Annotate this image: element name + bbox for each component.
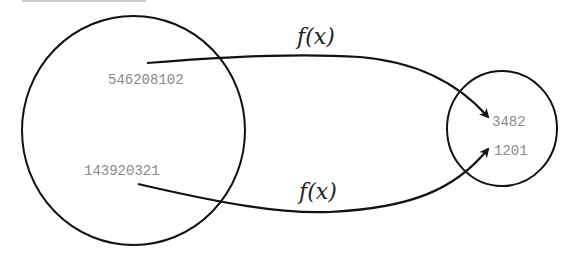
function-label-top: f(x) (295, 24, 335, 49)
codomain-element-1: 3482 (492, 114, 526, 130)
domain-set-circle (22, 16, 245, 245)
codomain-element-2: 1201 (494, 143, 528, 159)
function-mapping-diagram: f(x) f(x) 546208102 143920321 3482 1201 (0, 0, 579, 254)
domain-element-2: 143920321 (84, 163, 160, 179)
domain-element-1: 546208102 (108, 72, 184, 88)
function-label-bottom: f(x) (297, 179, 337, 204)
mapping-arrow-top (147, 55, 488, 117)
